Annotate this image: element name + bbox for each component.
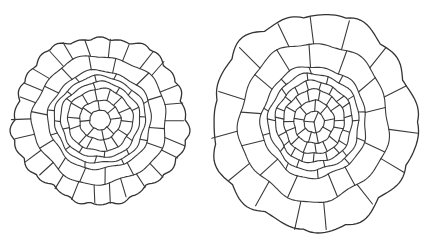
- cell-wall: [352, 120, 359, 121]
- cell-wall: [94, 185, 95, 203]
- cell-cross-section-figure: [0, 0, 426, 241]
- cell-wall: [317, 170, 318, 179]
- cell-wall: [48, 110, 55, 111]
- cell-wall: [307, 73, 308, 80]
- cell-wall: [104, 151, 105, 157]
- right-cell-cross-section: [212, 15, 419, 233]
- cell-wall: [11, 119, 30, 120]
- cell-wall: [334, 120, 344, 121]
- left-cell-cross-section: [10, 37, 190, 205]
